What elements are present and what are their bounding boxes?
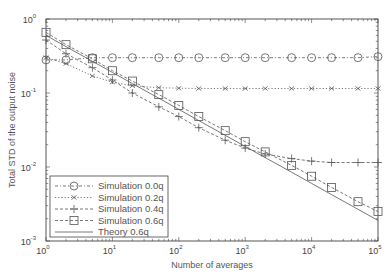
y-tick-label: 100 [23,13,37,25]
series-simulation-0-0q [42,53,382,64]
x-tick-label: 105 [368,244,382,256]
y-tick-label: 10-3 [21,235,37,247]
x-axis-label: Number of averages [171,260,253,270]
y-tick-label: 10-1 [21,87,37,99]
x-tick-label: 100 [36,244,50,256]
legend-label: Simulation 0.0q [98,180,163,191]
x-tick-label: 101 [103,244,117,256]
legend-label: Simulation 0.6q [98,215,163,226]
legend-label: Simulation 0.2q [98,192,163,203]
series-simulation-0-4q [42,36,382,166]
chart: 100101102103104105 10-310-210-1100 Numbe… [0,0,390,276]
legend: Simulation 0.0q Simulation 0.2q Simulati… [50,176,168,237]
legend-label: Theory 0.6q [98,226,149,237]
x-tick-label: 102 [169,244,183,256]
y-axis-label: Total STD of the output noise [7,72,17,188]
x-tick-label: 104 [302,244,316,256]
legend-label: Simulation 0.4q [98,203,163,214]
x-tick-label: 103 [236,244,250,256]
y-tick-label: 10-2 [21,161,37,173]
